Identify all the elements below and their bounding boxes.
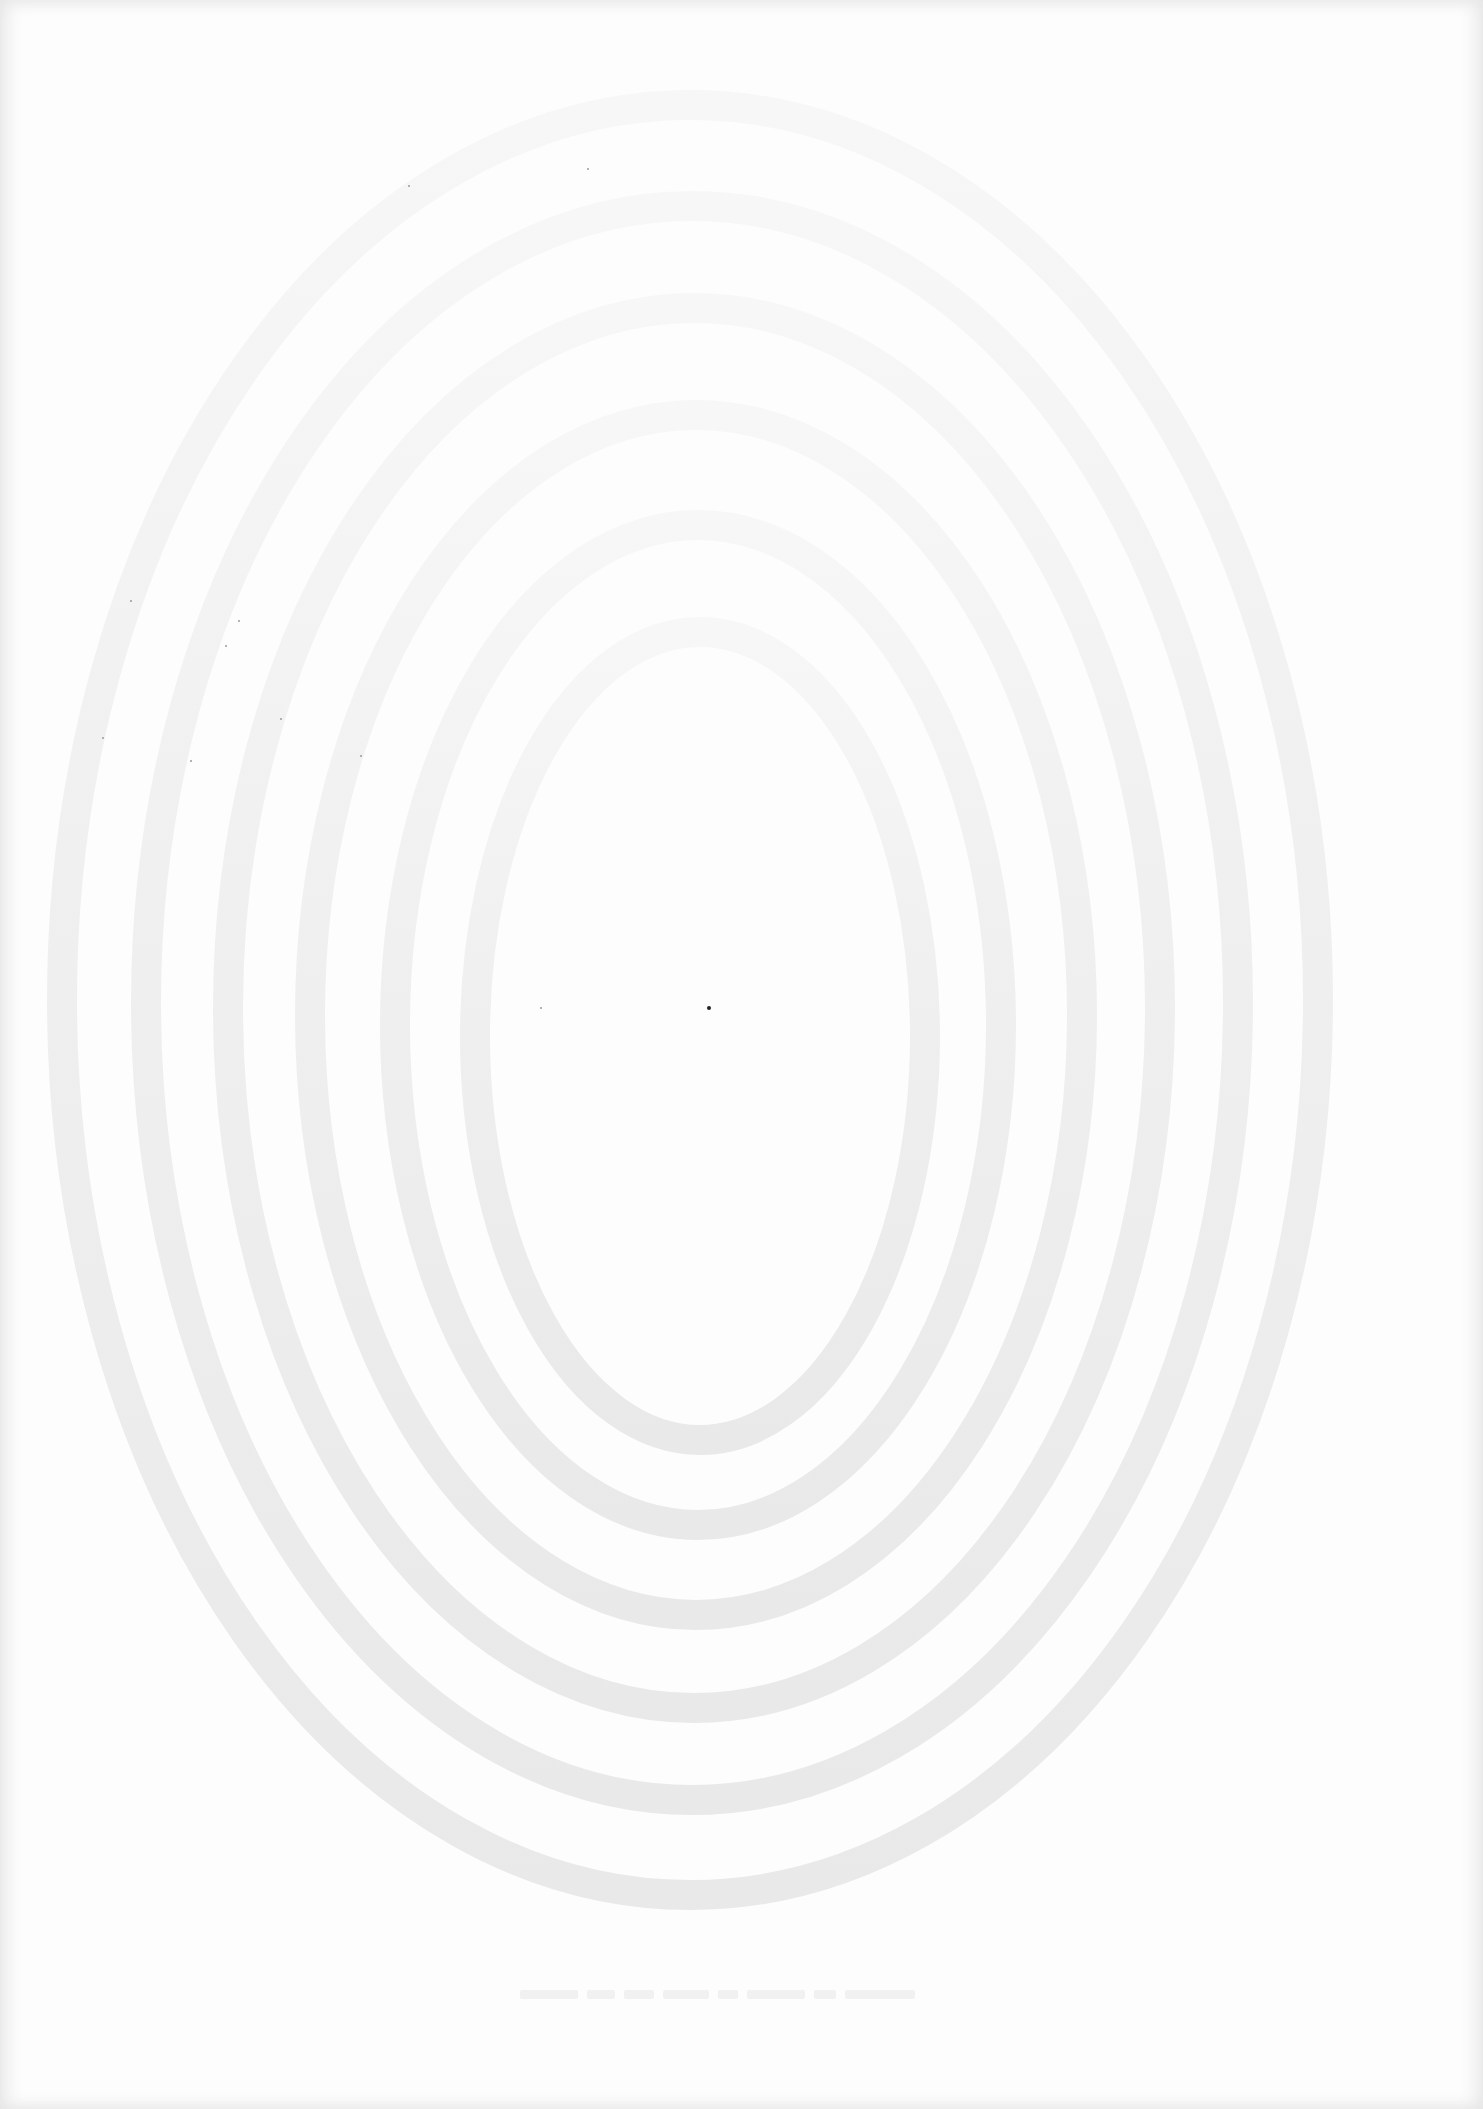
scanned-page (0, 0, 1483, 2109)
scan-speck (587, 168, 589, 170)
center-dot (707, 1006, 711, 1010)
bleed-word (718, 1990, 738, 1999)
footer-bleed-through-text (520, 1986, 940, 2002)
scan-speck (408, 185, 410, 187)
scan-speck (225, 645, 227, 647)
scan-speck (102, 737, 104, 739)
bleed-word (845, 1990, 915, 1999)
bleed-word (520, 1990, 578, 1999)
scan-speck (360, 755, 362, 757)
scan-speck (238, 620, 240, 622)
concentric-ovals-watermark (0, 0, 1483, 2109)
bleed-word (624, 1990, 654, 1999)
scan-speck (280, 718, 282, 720)
bleed-word (663, 1990, 709, 1999)
bleed-word (814, 1990, 836, 1999)
bleed-word (747, 1990, 805, 1999)
watermark-ring (475, 632, 925, 1440)
scan-speck (190, 760, 192, 762)
scan-speck (130, 600, 132, 602)
scan-speck (540, 1007, 542, 1009)
bleed-word (587, 1990, 615, 1999)
